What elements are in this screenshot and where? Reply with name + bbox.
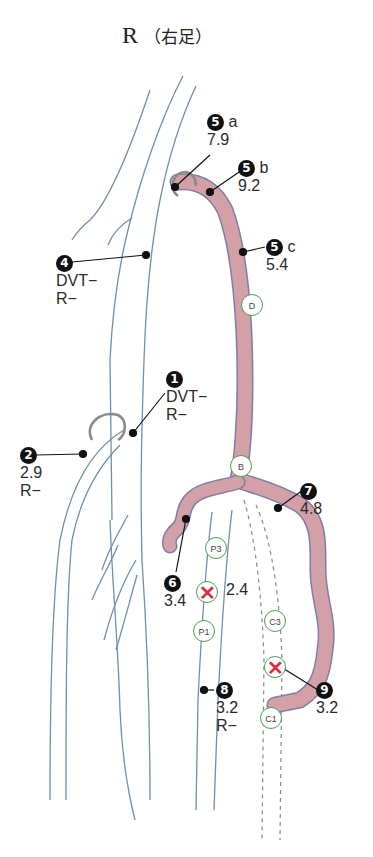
- badge-5b: 5: [238, 160, 255, 177]
- point-5a-label: 5 a 7.9: [207, 113, 237, 149]
- marker-p2-incompetent-x-icon: P2: [196, 581, 218, 603]
- point-5c-label: 5 c 5.4: [266, 238, 295, 274]
- vein-diagram: [0, 0, 373, 857]
- point-5b-label: 5 b 9.2: [238, 159, 268, 195]
- badge-1: 1: [166, 371, 183, 388]
- badge-4: 4: [56, 255, 73, 272]
- point-2-label: 2 2.9 R−: [20, 446, 42, 500]
- point-4-label: 4 DVT− R−: [56, 254, 97, 308]
- p2-value: 2.4: [226, 581, 248, 599]
- marker-p1: P1: [193, 620, 215, 642]
- marker-p3: P3: [205, 537, 227, 559]
- badge-7: 7: [300, 483, 317, 500]
- badge-6: 6: [164, 575, 181, 592]
- point-1-label: 1 DVT− R−: [166, 370, 207, 424]
- marker-c1: C1: [260, 707, 282, 729]
- point-9-label: 9 3.2: [316, 681, 338, 717]
- marker-b: B: [230, 455, 252, 477]
- badge-8: 8: [216, 682, 233, 699]
- badge-5c: 5: [266, 239, 283, 256]
- badge-5a: 5: [207, 114, 224, 131]
- badge-9: 9: [316, 682, 333, 699]
- marker-d: D: [241, 294, 263, 316]
- marker-c3: C3: [264, 610, 286, 632]
- badge-2: 2: [20, 447, 37, 464]
- marker-c2-incompetent-x-icon: C2: [264, 656, 286, 678]
- point-8-label: 8 3.2 R−: [216, 681, 238, 735]
- point-7-label: 7 4.8: [300, 482, 322, 518]
- point-6-label: 6 3.4: [164, 574, 186, 610]
